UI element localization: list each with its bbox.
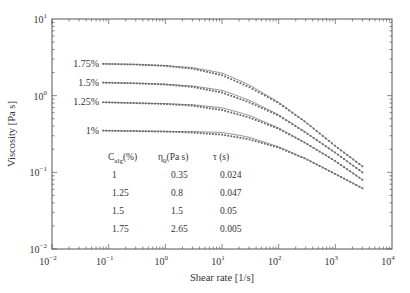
data-point bbox=[273, 100, 275, 102]
data-point bbox=[136, 82, 138, 84]
series-label: 1.5% bbox=[78, 77, 99, 88]
data-point bbox=[340, 149, 342, 151]
data-point bbox=[255, 90, 257, 92]
y-tick-label: 10−2 bbox=[30, 242, 48, 255]
data-point bbox=[310, 145, 312, 147]
data-point bbox=[124, 82, 126, 84]
data-point bbox=[218, 109, 220, 111]
table-cell: 1 bbox=[112, 170, 117, 180]
data-point bbox=[358, 186, 360, 188]
data-point bbox=[118, 102, 120, 104]
data-point bbox=[145, 102, 147, 104]
data-point bbox=[160, 131, 162, 133]
data-point bbox=[325, 137, 327, 139]
data-point bbox=[352, 173, 354, 175]
table-cell: 0.8 bbox=[171, 188, 183, 198]
data-point bbox=[249, 86, 251, 88]
data-point bbox=[325, 154, 327, 156]
data-point bbox=[282, 117, 284, 119]
series-label: 1% bbox=[86, 125, 99, 136]
data-point bbox=[288, 110, 290, 112]
data-point bbox=[169, 84, 171, 86]
data-point bbox=[273, 145, 275, 147]
data-point bbox=[145, 64, 147, 66]
data-point bbox=[307, 159, 309, 161]
data-point bbox=[142, 64, 144, 66]
data-point bbox=[121, 102, 123, 104]
data-point bbox=[188, 105, 190, 107]
data-point bbox=[316, 130, 318, 132]
data-point bbox=[188, 86, 190, 88]
x-tick-label: 100 bbox=[155, 254, 169, 267]
data-point bbox=[163, 84, 165, 86]
data-point bbox=[313, 137, 315, 139]
data-point bbox=[203, 88, 205, 90]
data-point bbox=[114, 82, 116, 84]
data-point bbox=[175, 131, 177, 133]
data-point bbox=[200, 106, 202, 108]
data-point bbox=[191, 68, 193, 70]
data-point bbox=[337, 175, 339, 177]
data-point bbox=[343, 166, 345, 168]
data-point bbox=[307, 133, 309, 135]
data-point bbox=[307, 143, 309, 145]
data-point bbox=[264, 95, 266, 97]
data-point bbox=[179, 66, 181, 68]
data-point bbox=[310, 125, 312, 127]
series-label: 1.75% bbox=[73, 58, 99, 69]
data-point bbox=[148, 64, 150, 66]
data-point bbox=[197, 106, 199, 108]
data-point bbox=[361, 165, 363, 167]
data-point bbox=[337, 154, 339, 156]
data-point bbox=[233, 112, 235, 114]
data-point bbox=[358, 169, 360, 171]
data-point bbox=[157, 131, 159, 133]
data-point bbox=[130, 82, 132, 84]
data-point bbox=[145, 83, 147, 85]
data-point bbox=[230, 78, 232, 80]
data-point bbox=[151, 83, 153, 85]
data-point bbox=[340, 156, 342, 158]
data-point bbox=[246, 138, 248, 140]
data-point bbox=[304, 157, 306, 159]
data-point bbox=[105, 82, 107, 84]
data-point bbox=[337, 162, 339, 164]
data-point bbox=[169, 131, 171, 133]
data-point bbox=[334, 152, 336, 154]
data-point bbox=[111, 82, 113, 84]
data-point bbox=[307, 123, 309, 125]
data-point bbox=[105, 101, 107, 103]
data-point bbox=[157, 83, 159, 85]
y-tick-label: 10−1 bbox=[30, 165, 48, 178]
data-point bbox=[249, 139, 251, 141]
x-tick-label: 10−1 bbox=[96, 254, 114, 267]
data-point bbox=[334, 145, 336, 147]
data-point bbox=[212, 72, 214, 74]
data-point bbox=[282, 149, 284, 151]
data-point bbox=[355, 175, 357, 177]
data-point bbox=[319, 141, 321, 143]
data-point bbox=[221, 92, 223, 94]
data-point bbox=[200, 88, 202, 90]
data-point bbox=[182, 131, 184, 133]
data-point bbox=[273, 126, 275, 128]
data-point bbox=[139, 64, 141, 66]
data-point bbox=[175, 85, 177, 87]
data-point bbox=[325, 168, 327, 170]
data-point bbox=[224, 93, 226, 95]
data-point bbox=[267, 124, 269, 126]
data-point bbox=[346, 179, 348, 181]
data-point bbox=[267, 144, 269, 146]
data-point bbox=[310, 135, 312, 137]
data-point bbox=[221, 109, 223, 111]
data-point bbox=[322, 153, 324, 155]
data-point bbox=[160, 65, 162, 67]
data-point bbox=[264, 108, 266, 110]
data-point bbox=[182, 104, 184, 106]
data-point bbox=[218, 74, 220, 76]
data-point bbox=[166, 65, 168, 67]
x-tick-label: 103 bbox=[325, 254, 339, 267]
data-point bbox=[236, 113, 238, 115]
data-point bbox=[355, 161, 357, 163]
data-point bbox=[160, 83, 162, 85]
